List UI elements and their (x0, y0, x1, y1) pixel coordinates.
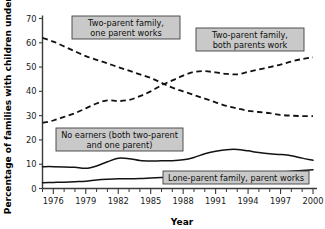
x-axis-title: Year (170, 217, 194, 227)
series-layer (43, 38, 314, 183)
chart-canvas: Percentage of families with children und… (0, 0, 325, 229)
y-tick-label-0: 0 (31, 184, 36, 194)
ann-lone-parent-text-0: Lone-parent family, parent works (168, 173, 304, 183)
x-tick-label-1997: 1997 (270, 196, 291, 206)
x-axis-ticks: 197619791982198519881991199419972000 (43, 189, 324, 206)
annotation-layer: Two-parent family,one parent worksTwo-pa… (56, 16, 309, 184)
ann-one-parent-works: Two-parent family,one parent works (72, 16, 180, 39)
x-tick-label-1991: 1991 (205, 196, 226, 206)
ann-both-parents-work-text-0: Two-parent family, (211, 30, 288, 40)
y-tick-label-40: 40 (26, 86, 37, 96)
y-tick-label-50: 50 (26, 62, 37, 72)
ann-both-parents-work-text-1: both parents work (213, 40, 288, 50)
y-tick-label-60: 60 (26, 38, 37, 48)
x-tick-label-2000: 2000 (302, 196, 323, 206)
x-tick-label-1979: 1979 (75, 196, 96, 206)
ann-one-parent-works-text-1: one parent works (90, 28, 161, 38)
x-tick-label-1994: 1994 (238, 196, 259, 206)
ann-no-earners: No earners (both two-parentand one paren… (56, 128, 183, 151)
y-tick-label-30: 30 (26, 111, 37, 121)
y-tick-label-20: 20 (26, 135, 37, 145)
x-tick-label-1988: 1988 (173, 196, 194, 206)
x-tick-label-1985: 1985 (140, 196, 161, 206)
series-line-2 (43, 149, 314, 168)
x-tick-label-1982: 1982 (108, 196, 129, 206)
ann-no-earners-text-1: and one parent) (87, 140, 153, 150)
y-axis-ticks: 010203040506070 (26, 14, 43, 194)
ann-both-parents-work: Two-parent family,both parents work (196, 28, 304, 51)
ann-lone-parent: Lone-parent family, parent works (163, 171, 309, 184)
ann-no-earners-text-0: No earners (both two-parent (61, 130, 179, 140)
x-tick-label-1976: 1976 (43, 196, 64, 206)
y-tick-label-70: 70 (26, 14, 37, 24)
ann-one-parent-works-text-0: Two-parent family, (87, 18, 164, 28)
y-axis-title: Percentage of families with children und… (3, 0, 13, 214)
line-chart: Percentage of families with children und… (0, 0, 325, 229)
series-line-1 (43, 57, 314, 123)
y-tick-label-10: 10 (26, 159, 37, 169)
